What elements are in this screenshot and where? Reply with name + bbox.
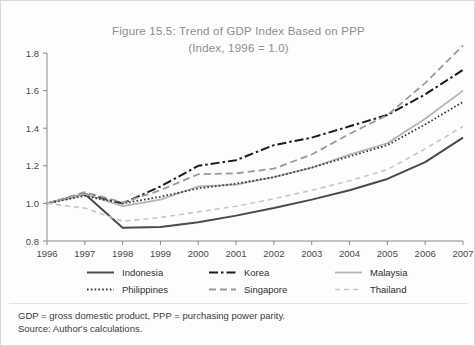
svg-text:2006: 2006 xyxy=(415,248,436,259)
svg-text:2003: 2003 xyxy=(301,248,322,259)
legend-swatch-philippines xyxy=(87,285,114,294)
svg-text:2005: 2005 xyxy=(377,248,398,259)
legend-item-korea[interactable]: Korea xyxy=(209,267,335,278)
series-group xyxy=(47,45,463,227)
svg-text:1.4: 1.4 xyxy=(26,123,39,134)
svg-text:1996: 1996 xyxy=(36,248,57,259)
svg-text:1.0: 1.0 xyxy=(26,198,39,209)
legend-item-indonesia[interactable]: Indonesia xyxy=(87,267,209,278)
legend-swatch-indonesia xyxy=(87,268,114,277)
svg-text:2004: 2004 xyxy=(339,248,360,259)
note-definitions: GDP = gross domestic product, PPP = purc… xyxy=(18,309,458,322)
series-line-indonesia xyxy=(47,138,463,228)
footer-divider xyxy=(9,303,468,304)
legend-label: Korea xyxy=(244,267,269,278)
legend-swatch-malaysia xyxy=(335,268,362,277)
figure-notes: GDP = gross domestic product, PPP = purc… xyxy=(18,309,458,335)
y-axis: 0.81.01.21.41.61.8 xyxy=(26,48,47,247)
legend-swatch-singapore xyxy=(209,285,236,294)
legend-item-philippines[interactable]: Philippines xyxy=(87,284,209,295)
svg-text:2001: 2001 xyxy=(226,248,247,259)
svg-text:2002: 2002 xyxy=(263,248,284,259)
legend-label: Singapore xyxy=(244,284,287,295)
legend-item-malaysia[interactable]: Malaysia xyxy=(335,267,447,278)
svg-text:2000: 2000 xyxy=(188,248,209,259)
svg-text:0.8: 0.8 xyxy=(26,236,39,247)
line-chart: 0.81.01.21.41.61.8 199619971998199920002… xyxy=(1,1,475,261)
figure-container: Figure 15.5: Trend of GDP Index Based on… xyxy=(0,0,475,346)
legend-swatch-korea xyxy=(209,268,236,277)
legend-item-singapore[interactable]: Singapore xyxy=(209,284,335,295)
svg-text:1.2: 1.2 xyxy=(26,160,39,171)
legend-label: Indonesia xyxy=(122,267,163,278)
series-line-korea xyxy=(47,70,463,203)
legend-label: Malaysia xyxy=(370,267,408,278)
legend-item-thailand[interactable]: Thailand xyxy=(335,284,447,295)
legend-swatch-thailand xyxy=(335,285,362,294)
x-axis: 1996199719981999200020012002200320042005… xyxy=(36,241,473,259)
legend-label: Philippines xyxy=(122,284,168,295)
svg-text:2007: 2007 xyxy=(452,248,473,259)
note-source: Source: Author's calculations. xyxy=(18,322,458,335)
svg-text:1999: 1999 xyxy=(150,248,171,259)
svg-text:1.6: 1.6 xyxy=(26,85,39,96)
legend-label: Thailand xyxy=(370,284,406,295)
svg-text:1998: 1998 xyxy=(112,248,133,259)
svg-text:1.8: 1.8 xyxy=(26,48,39,59)
plot-area: 0.81.01.21.41.61.8 199619971998199920002… xyxy=(1,1,475,261)
series-line-singapore xyxy=(47,45,463,203)
svg-text:1997: 1997 xyxy=(74,248,95,259)
chart-legend: IndonesiaKoreaMalaysiaPhilippinesSingapo… xyxy=(87,264,447,298)
series-line-philippines xyxy=(47,102,463,204)
